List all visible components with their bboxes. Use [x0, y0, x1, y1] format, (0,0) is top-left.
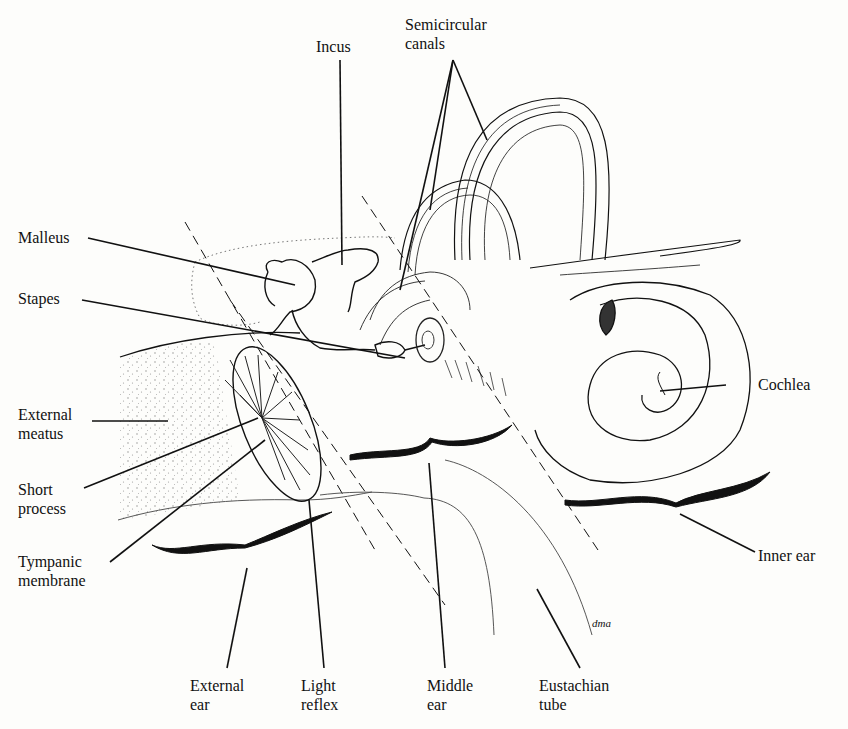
ear-anatomy-drawing: dma	[0, 0, 848, 729]
label-malleus-text: Malleus	[18, 228, 70, 247]
bone-shelf	[530, 240, 740, 275]
label-eustachian-tube: Eustachian tube	[539, 676, 609, 714]
semicircular-canals-drawing	[400, 98, 609, 275]
label-middle-ear-line2: ear	[427, 695, 473, 714]
label-external-meatus-line2: meatus	[18, 424, 72, 443]
artist-signature: dma	[592, 617, 611, 629]
label-external-ear-line1: External	[190, 676, 244, 695]
label-short-process: Short process	[18, 480, 66, 518]
label-light-reflex-line2: reflex	[301, 695, 338, 714]
label-tympanic-line2: membrane	[18, 571, 86, 590]
label-light-reflex-line1: Light	[301, 676, 338, 695]
label-malleus: Malleus	[18, 228, 70, 247]
label-short-process-line2: process	[18, 499, 66, 518]
label-middle-ear: Middle ear	[427, 676, 473, 714]
braces	[152, 425, 770, 553]
label-semicircular-canals: Semicircular canals	[405, 15, 487, 53]
label-light-reflex: Light reflex	[301, 676, 338, 714]
label-stapes: Stapes	[18, 289, 60, 308]
label-external-meatus-line1: External	[18, 405, 72, 424]
cochlea-drawing	[535, 282, 750, 482]
label-eustachian-line2: tube	[539, 695, 609, 714]
label-eustachian-line1: Eustachian	[539, 676, 609, 695]
external-meatus-region	[118, 332, 372, 520]
label-incus: Incus	[316, 37, 351, 56]
label-cochlea: Cochlea	[758, 375, 810, 394]
section-dashed-lines	[185, 196, 598, 605]
label-middle-ear-line1: Middle	[427, 676, 473, 695]
label-inner-ear-text: Inner ear	[758, 546, 815, 565]
label-stapes-text: Stapes	[18, 289, 60, 308]
label-external-ear-line2: ear	[190, 695, 244, 714]
label-short-process-line1: Short	[18, 480, 66, 499]
label-inner-ear: Inner ear	[758, 546, 815, 565]
label-cochlea-text: Cochlea	[758, 375, 810, 394]
vestibule-drawing	[360, 272, 506, 396]
label-incus-text: Incus	[316, 37, 351, 56]
label-semicircular-line1: Semicircular	[405, 15, 487, 34]
label-external-meatus: External meatus	[18, 405, 72, 443]
label-tympanic-line1: Tympanic	[18, 552, 86, 571]
label-semicircular-line2: canals	[405, 34, 487, 53]
label-tympanic-membrane: Tympanic membrane	[18, 552, 86, 590]
label-external-ear: External ear	[190, 676, 244, 714]
